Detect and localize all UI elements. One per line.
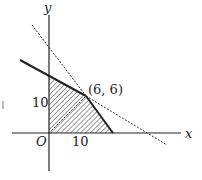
y-tick-label: 10 [32,95,49,110]
x-tick-label: 10 [72,134,89,149]
y-axis-label: y [43,0,52,15]
intersection-point-label: (6, 6) [88,82,123,97]
origin-label: O [36,134,47,149]
lp-diagram: y x O 10 10 (6, 6) [0,0,202,180]
x-axis-label: x [185,126,193,141]
